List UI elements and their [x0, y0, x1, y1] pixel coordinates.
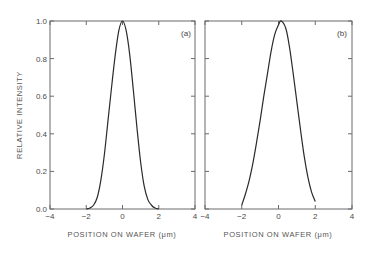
x-tick-label: −2 [82, 212, 92, 221]
intensity-curve [86, 21, 159, 209]
y-tick-label: 0.6 [36, 92, 48, 101]
x-tick-label: 0 [276, 212, 281, 221]
y-tick-label: 0.2 [36, 167, 48, 176]
panel-label: (a) [181, 29, 191, 38]
x-tick-label: −4 [200, 212, 210, 221]
y-tick-label: 0.0 [36, 205, 48, 214]
y-tick-label: 0.4 [36, 130, 48, 139]
x-tick-label: 2 [157, 212, 162, 221]
y-tick-label: 1.0 [36, 17, 48, 26]
x-tick-label: 0 [120, 212, 125, 221]
x-tick-label: −2 [237, 212, 247, 221]
x-tick-label: 2 [313, 212, 318, 221]
plot-panel-a: −4−20240.00.20.40.60.81.0(a) [36, 17, 198, 221]
panel-label: (b) [337, 29, 347, 38]
intensity-curve [242, 21, 316, 205]
axes-frame [50, 21, 195, 209]
figure: −4−20240.00.20.40.60.81.0(a) −4−2024(b) … [0, 0, 372, 253]
axes-frame [205, 21, 352, 209]
x-tick-label: 4 [193, 212, 198, 221]
y-tick-label: 0.8 [36, 55, 48, 64]
x-tick-label: 4 [350, 212, 355, 221]
x-axis-label-a: POSITION ON WAFER (μm) [68, 230, 177, 239]
y-axis-label: RELATIVE INTENSITY [15, 71, 24, 159]
x-axis-label-b: POSITION ON WAFER (μm) [224, 230, 333, 239]
plot-panel-b: −4−2024(b) [200, 21, 354, 221]
